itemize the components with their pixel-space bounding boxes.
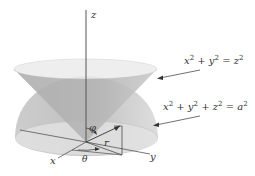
cone-pointer-head — [157, 76, 163, 81]
x-axis-label: x — [50, 155, 56, 166]
y-axis-label: y — [149, 151, 156, 162]
cone-equation: x2 + y2 = z2 — [184, 54, 243, 66]
spherical-coordinates-diagram: z y x φ θ r x2 + y2 = z2 x2 + y2 + z2 = … — [0, 0, 255, 176]
theta-label: θ — [82, 154, 88, 164]
sphere-equation: x2 + y2 + z2 = a2 — [163, 100, 248, 112]
phi-label: φ — [89, 122, 96, 133]
sphere-pointer — [156, 116, 200, 125]
z-axis-label: z — [90, 9, 97, 20]
cone-pointer — [160, 70, 200, 78]
